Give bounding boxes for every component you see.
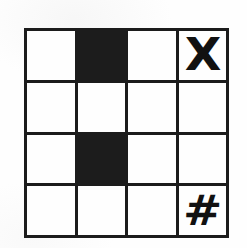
cell-r4c1[interactable] xyxy=(27,186,75,235)
cell-r3c1[interactable] xyxy=(27,135,75,184)
hash-symbol-glyph: # xyxy=(182,190,222,232)
cell-r4c4[interactable]: # xyxy=(179,186,227,235)
letter-x-glyph: X xyxy=(184,33,220,77)
cell-r2c1[interactable] xyxy=(27,83,75,132)
image-canvas: X# xyxy=(0,0,247,248)
cell-r3c2[interactable] xyxy=(78,135,126,184)
cell-r4c2[interactable] xyxy=(78,186,126,235)
symbol-grid[interactable]: X# xyxy=(24,28,229,238)
cell-r2c3[interactable] xyxy=(128,83,176,132)
cell-r4c3[interactable] xyxy=(128,186,176,235)
cell-r3c4[interactable] xyxy=(179,135,227,184)
cell-r2c2[interactable] xyxy=(78,83,126,132)
grid-container: X# xyxy=(24,28,229,238)
cell-r1c3[interactable] xyxy=(128,31,176,80)
cell-r2c4[interactable] xyxy=(179,83,227,132)
cell-r1c4[interactable]: X xyxy=(179,31,227,80)
cell-r1c1[interactable] xyxy=(27,31,75,80)
cell-r1c2[interactable] xyxy=(78,31,126,80)
cell-r3c3[interactable] xyxy=(128,135,176,184)
